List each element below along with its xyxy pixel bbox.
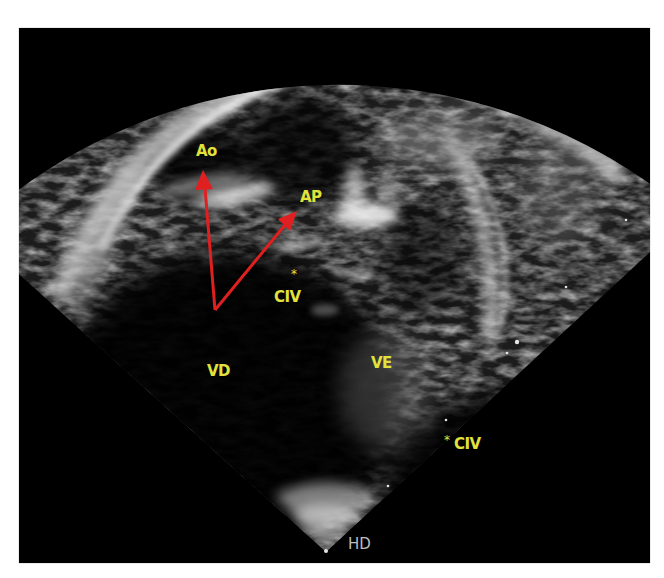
ultrasound-scan (19, 28, 650, 563)
label-civ-lower: CIV (454, 437, 481, 452)
label-hd-mode: HD (348, 537, 371, 552)
label-pulmonary-artery: AP (300, 190, 322, 205)
label-civ-upper: CIV (274, 290, 301, 305)
sector-image (19, 28, 650, 563)
asterisk-marker-lower: * (444, 434, 450, 446)
ultrasound-frame (19, 28, 650, 563)
label-aorta: Ao (196, 144, 217, 159)
asterisk-marker-upper: * (291, 268, 297, 280)
label-right-ventricle: VD (207, 364, 230, 379)
label-left-ventricle: VE (371, 356, 392, 371)
